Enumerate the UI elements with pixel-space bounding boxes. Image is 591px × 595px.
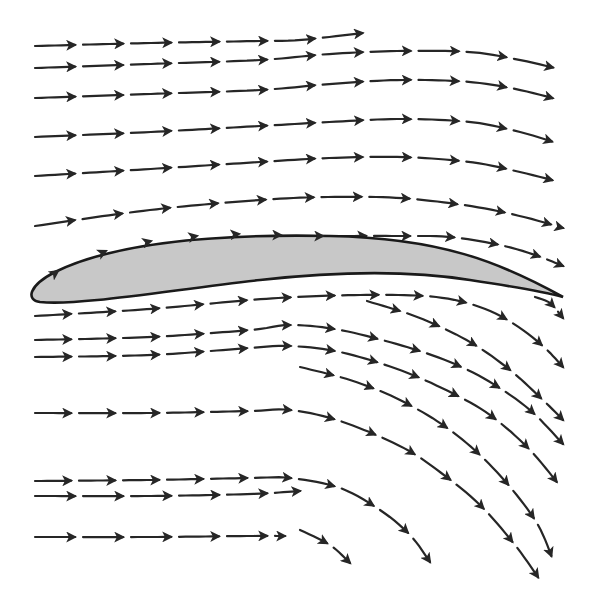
flow-arrow <box>79 338 115 339</box>
flow-arrow <box>419 51 459 52</box>
flow-arrow <box>323 157 363 158</box>
flow-arrow <box>123 355 159 356</box>
flow-arrow <box>167 412 203 413</box>
flow-arrow <box>83 95 123 96</box>
flow-arrow <box>211 478 247 479</box>
flow-arrow <box>342 295 378 296</box>
flow-arrow <box>371 80 411 81</box>
flow-arrow <box>298 296 334 297</box>
flow-arrow <box>211 411 247 412</box>
flow-arrow <box>35 45 75 46</box>
flow-arrow <box>370 157 410 158</box>
flow-arrow <box>386 295 422 296</box>
flow-arrow <box>131 63 171 64</box>
flow-arrow <box>227 41 267 42</box>
flow-arrow <box>35 97 75 98</box>
flow-arrow <box>179 536 219 537</box>
flow-arrow <box>123 337 159 338</box>
flow-arrow <box>35 339 71 340</box>
flow-arrow <box>167 479 203 480</box>
flow-arrow <box>83 44 123 45</box>
flow-arrow <box>179 62 219 63</box>
flow-arrow <box>371 119 411 120</box>
flow-arrow <box>227 493 267 494</box>
flow-arrow <box>371 51 411 52</box>
streamline-lower-7 <box>35 536 285 537</box>
flow-arrow <box>131 93 171 94</box>
flow-arrow <box>179 495 219 496</box>
flow-arrow <box>179 42 219 43</box>
flow-arrow <box>558 227 563 228</box>
flow-arrow <box>79 356 115 357</box>
flow-arrow <box>131 43 171 44</box>
flow-arrow <box>255 477 291 478</box>
flow-arrow <box>35 67 75 68</box>
flow-arrow <box>179 92 219 93</box>
airfoil-streamline-diagram <box>0 0 591 595</box>
flow-arrow <box>419 80 459 81</box>
flow-arrow <box>83 65 123 66</box>
